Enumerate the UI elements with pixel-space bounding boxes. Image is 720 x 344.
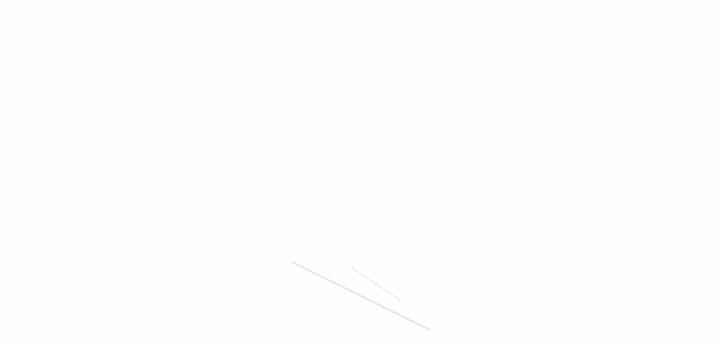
figure-container	[0, 0, 720, 344]
distribution-plot	[0, 0, 720, 344]
scan-artifact	[292, 262, 430, 330]
